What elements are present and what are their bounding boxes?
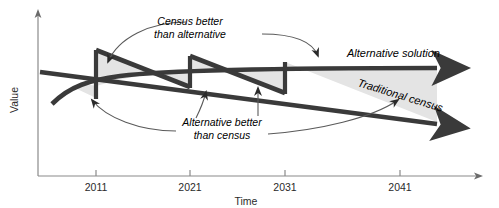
y-axis-label: Value xyxy=(8,87,20,113)
leader-census-right xyxy=(262,34,318,56)
annotation-alternative-better-line2: than census xyxy=(194,129,251,141)
x-tick-label-2021: 2021 xyxy=(178,181,202,193)
annotation-census-better-line2: than alternative xyxy=(154,28,226,40)
annotation-census-better-line1: Census better xyxy=(157,15,223,27)
x-tick-label-2011: 2011 xyxy=(85,181,108,193)
leader-alternative-mid xyxy=(196,92,206,118)
x-tick-label-2031: 2031 xyxy=(273,181,297,193)
census-vs-alternative-diagram: Census better than alternative Alternati… xyxy=(0,0,499,208)
annotation-alternative-better-line1: Alternative better xyxy=(181,116,262,128)
leader-alternative-left xyxy=(92,100,176,131)
text-group: Census better than alternative Alternati… xyxy=(8,15,445,207)
diagram-canvas: Census better than alternative Alternati… xyxy=(0,0,499,208)
series-label-alternative-solution: Alternative solution xyxy=(346,47,440,59)
x-tick-label-2041: 2041 xyxy=(388,181,412,193)
x-axis-label: Time xyxy=(235,195,258,207)
